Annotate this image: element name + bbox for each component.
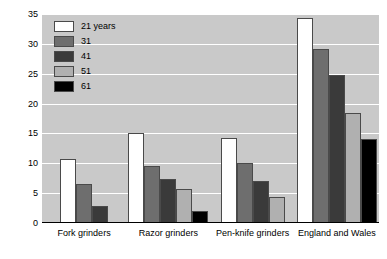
y-axis-tick-label: 20: [4, 99, 38, 108]
legend-item: 31: [54, 35, 116, 47]
x-axis-tick-label: Pen-knife grinders: [211, 228, 295, 238]
legend-swatch: [54, 66, 74, 77]
bar: [237, 163, 253, 223]
bar: [176, 189, 192, 223]
x-axis-tick-label: England and Wales: [295, 228, 379, 238]
legend-item: 61: [54, 80, 116, 92]
y-axis-tick-label: 35: [4, 10, 38, 19]
legend-label: 21 years: [81, 22, 116, 31]
legend-label: 31: [81, 37, 91, 46]
y-axis-tick-label: 15: [4, 129, 38, 138]
x-axis-line: [42, 222, 379, 223]
bar: [345, 113, 361, 223]
bar-group: [221, 14, 285, 223]
y-axis: 05101520253035: [0, 0, 38, 259]
y-axis-tick-label: 5: [4, 189, 38, 198]
legend-swatch: [54, 81, 74, 92]
x-axis-tick-label: Fork grinders: [42, 228, 126, 238]
bar: [60, 159, 76, 223]
y-axis-tick-label: 25: [4, 69, 38, 78]
legend-label: 61: [81, 82, 91, 91]
bar: [361, 139, 377, 223]
bar-chart: 05101520253035 21 years31415161 Fork gri…: [0, 0, 387, 259]
bar: [144, 166, 160, 223]
legend-item: 21 years: [54, 20, 116, 32]
bar: [313, 49, 329, 223]
legend-swatch: [54, 21, 74, 32]
y-axis-tick-label: 10: [4, 159, 38, 168]
legend-swatch: [54, 36, 74, 47]
bar: [221, 138, 237, 223]
x-axis-tick-label: Razor grinders: [126, 228, 210, 238]
legend-label: 51: [81, 67, 91, 76]
bar: [92, 206, 108, 223]
bar-group: [297, 14, 377, 223]
bar-group: [128, 14, 208, 223]
legend: 21 years31415161: [54, 20, 116, 92]
legend-item: 41: [54, 50, 116, 62]
bar: [269, 197, 285, 223]
bar: [160, 179, 176, 223]
y-axis-tick-label: 30: [4, 39, 38, 48]
bar: [297, 18, 313, 223]
bar: [76, 184, 92, 223]
legend-label: 41: [81, 52, 91, 61]
bar: [329, 75, 345, 223]
bar: [128, 133, 144, 223]
legend-item: 51: [54, 65, 116, 77]
y-axis-tick-label: 0: [4, 219, 38, 228]
bar: [253, 181, 269, 223]
legend-swatch: [54, 51, 74, 62]
